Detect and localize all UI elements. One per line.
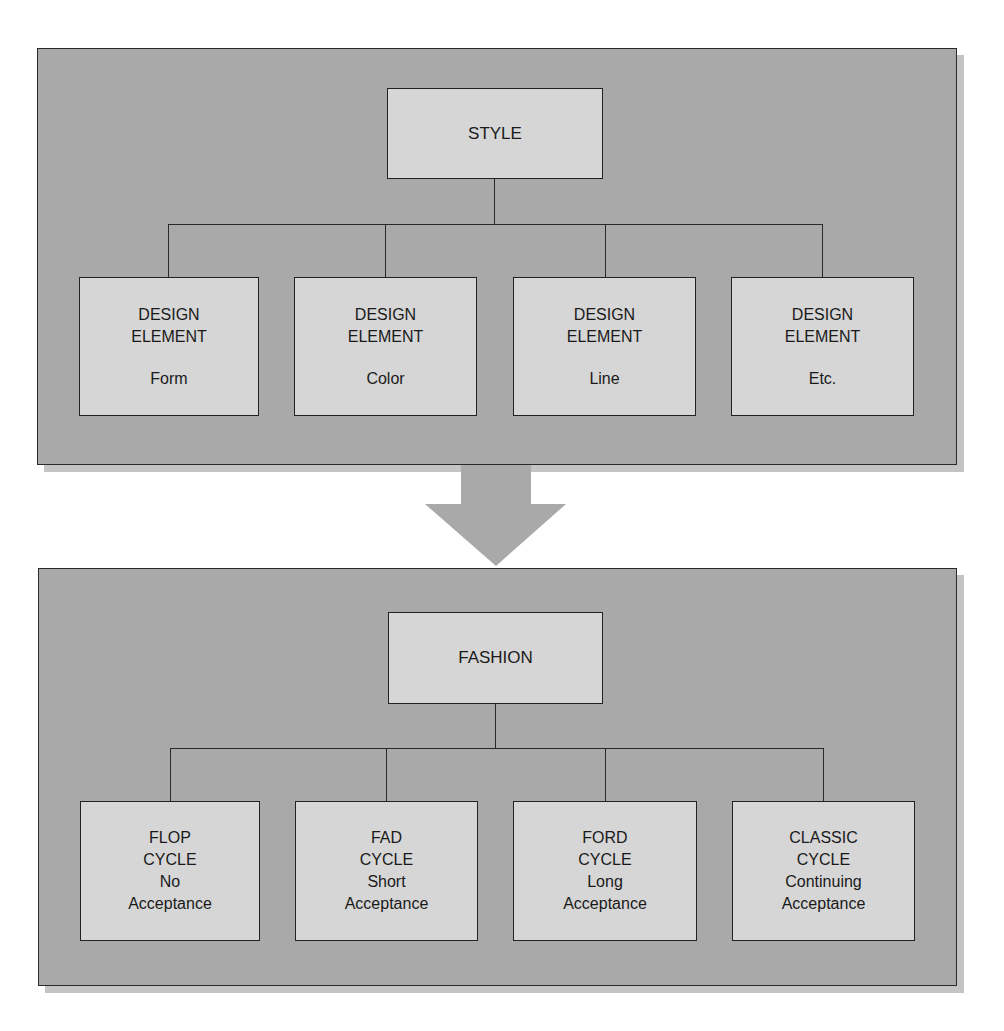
flop-cycle-box: FLOP CYCLE No Acceptance xyxy=(80,801,260,941)
child-line1: FORD xyxy=(582,827,627,849)
child-line3: Long xyxy=(587,871,623,893)
child-line4: Acceptance xyxy=(128,893,212,915)
fashion-drop-connector-1 xyxy=(170,748,171,801)
fashion-branch-connector xyxy=(170,748,824,749)
fashion-drop-connector-4 xyxy=(823,748,824,801)
fashion-drop-connector-3 xyxy=(605,748,606,801)
child-line4: Acceptance xyxy=(345,893,429,915)
child-line2: CYCLE xyxy=(143,849,196,871)
fashion-root-box: FASHION xyxy=(388,612,603,704)
fashion-trunk-connector xyxy=(495,704,496,748)
fashion-drop-connector-2 xyxy=(386,748,387,801)
child-line1: FLOP xyxy=(149,827,191,849)
child-line1: CLASSIC xyxy=(789,827,857,849)
fad-cycle-box: FAD CYCLE Short Acceptance xyxy=(295,801,478,941)
fashion-root-label: FASHION xyxy=(458,647,533,669)
child-line3: Continuing xyxy=(785,871,862,893)
child-line2: CYCLE xyxy=(797,849,850,871)
ford-cycle-box: FORD CYCLE Long Acceptance xyxy=(513,801,697,941)
classic-cycle-box: CLASSIC CYCLE Continuing Acceptance xyxy=(732,801,915,941)
child-line1: FAD xyxy=(371,827,402,849)
child-line3: No xyxy=(160,871,180,893)
child-line4: Acceptance xyxy=(782,893,866,915)
child-line4: Acceptance xyxy=(563,893,647,915)
child-line3: Short xyxy=(367,871,405,893)
child-line2: CYCLE xyxy=(578,849,631,871)
child-line2: CYCLE xyxy=(360,849,413,871)
